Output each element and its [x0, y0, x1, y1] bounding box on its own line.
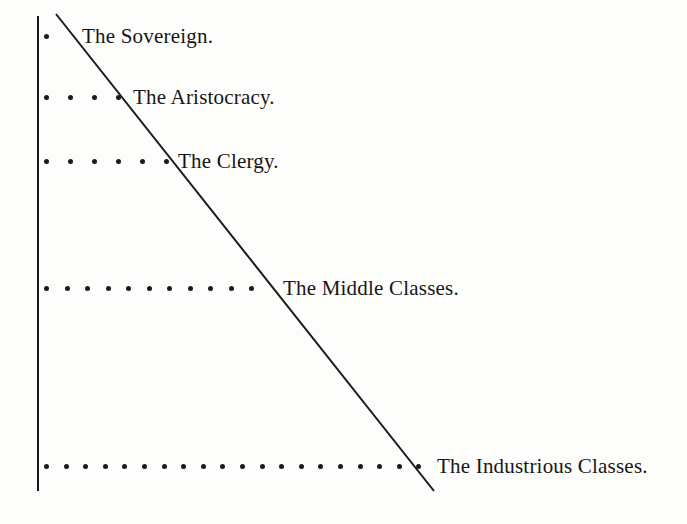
class-dot: [103, 464, 108, 469]
class-dot: [279, 464, 284, 469]
class-dot: [68, 95, 73, 100]
class-dot: [140, 159, 145, 164]
class-dot: [181, 464, 186, 469]
class-dot: [92, 159, 97, 164]
class-label-sovereign: The Sovereign.: [82, 24, 213, 49]
class-dot: [338, 464, 343, 469]
class-dot: [44, 95, 49, 100]
class-dot: [377, 464, 382, 469]
class-dot: [147, 286, 152, 291]
class-dot: [358, 464, 363, 469]
diagram-rules: [0, 0, 687, 524]
class-dot: [260, 464, 265, 469]
class-dot: [68, 159, 73, 164]
class-dot: [162, 464, 167, 469]
class-dot: [397, 464, 402, 469]
class-dot: [44, 286, 49, 291]
class-dot: [85, 286, 90, 291]
class-dot: [92, 95, 97, 100]
class-dot: [208, 286, 213, 291]
class-dot: [65, 286, 70, 291]
class-dot: [44, 464, 49, 469]
class-dot: [126, 286, 131, 291]
class-dot: [122, 464, 127, 469]
class-dot: [249, 286, 254, 291]
class-dot: [116, 95, 121, 100]
class-dot: [106, 286, 111, 291]
class-dot: [164, 159, 169, 164]
class-dot: [44, 34, 49, 39]
class-label-aristocracy: The Aristocracy.: [133, 85, 275, 110]
class-dot: [64, 464, 69, 469]
class-dot: [220, 464, 225, 469]
class-label-clergy: The Clergy.: [178, 149, 279, 174]
class-dot: [44, 159, 49, 164]
class-dot: [116, 159, 121, 164]
class-label-industrious-classes: The Industrious Classes.: [437, 454, 648, 479]
class-dot: [318, 464, 323, 469]
class-dot: [83, 464, 88, 469]
class-dot: [142, 464, 147, 469]
social-hierarchy-diagram: The Sovereign. The Aristocracy. The Cler…: [0, 0, 687, 524]
class-dot: [188, 286, 193, 291]
class-dot: [416, 464, 421, 469]
class-dot: [299, 464, 304, 469]
class-dot: [229, 286, 234, 291]
class-dot: [201, 464, 206, 469]
class-dot: [167, 286, 172, 291]
class-label-middle-classes: The Middle Classes.: [283, 276, 459, 301]
class-dot: [240, 464, 245, 469]
